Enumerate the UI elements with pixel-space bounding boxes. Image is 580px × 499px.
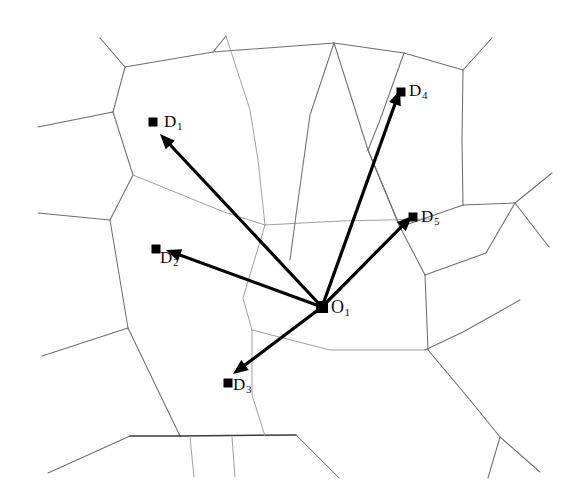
edge-left-upper-arm xyxy=(38,112,113,127)
marker-D5 xyxy=(409,213,418,222)
label-D2-text: D xyxy=(160,248,172,267)
label-D1-subscript: 1 xyxy=(177,120,183,132)
voronoi-cell-edges xyxy=(38,36,552,478)
edge-top-right-ridge xyxy=(334,43,463,70)
edge-left-mid-arm xyxy=(38,213,110,220)
edge-right-upper-v xyxy=(290,43,334,260)
vector-O1-D4-shaft xyxy=(322,101,396,307)
edge-bottom-spur-b xyxy=(232,437,235,477)
edge-right-cross-ne xyxy=(515,173,552,203)
vector-O1-D1-shaft xyxy=(168,143,322,307)
label-D2: D2 xyxy=(160,249,178,266)
edge-cell1-bottom xyxy=(133,175,265,225)
edge-right-cross-nw xyxy=(463,203,515,205)
edge-mid-right-down xyxy=(428,350,500,437)
label-D3-subscript: 3 xyxy=(246,383,252,395)
label-D4-subscript: 4 xyxy=(422,89,428,101)
vector-arrows xyxy=(160,90,412,374)
edge-right-down-fork xyxy=(500,437,540,472)
edge-mid-right-stem xyxy=(425,275,428,350)
edge-right-box-top xyxy=(462,70,463,205)
label-O1-subscript: 1 xyxy=(345,306,351,318)
label-D5: D5 xyxy=(421,208,439,225)
label-D3: D3 xyxy=(233,376,251,393)
marker-D1 xyxy=(149,118,158,127)
edge-bottom-left-tail xyxy=(48,436,130,473)
label-O1-text: O xyxy=(331,297,344,317)
voronoi-vector-figure: D1D2D3D4D5O1 xyxy=(0,0,580,499)
edge-left-mid xyxy=(110,112,133,220)
edge-right-cross-se xyxy=(515,203,549,247)
edge-top-mid-spur xyxy=(213,36,226,52)
marker-O1 xyxy=(316,301,328,313)
label-D4-text: D xyxy=(409,81,421,100)
edge-left-bottom xyxy=(128,328,180,436)
edge-center-lower xyxy=(252,330,265,436)
edge-top-left-spur xyxy=(100,38,125,67)
marker-D3 xyxy=(224,379,233,388)
edge-bottom-right-tail xyxy=(296,435,339,478)
point-markers xyxy=(149,88,418,388)
label-D1: D1 xyxy=(164,113,182,130)
edge-cell-mid-vert xyxy=(226,36,265,225)
label-D4: D4 xyxy=(409,82,427,99)
edge-left-upper xyxy=(113,67,125,112)
edge-left-lower xyxy=(110,220,128,328)
marker-D4 xyxy=(397,88,406,97)
edge-right-down-fork2 xyxy=(488,437,500,478)
vector-O1-D2-shaft xyxy=(177,254,322,307)
vector-O1-D5-shaft xyxy=(322,225,404,307)
figure-canvas xyxy=(0,0,580,499)
vector-O1-D3-shaft xyxy=(243,307,322,367)
label-D5-text: D xyxy=(421,207,433,226)
label-D1-text: D xyxy=(164,112,176,131)
edge-bottom-ridge xyxy=(180,435,296,436)
label-O1: O1 xyxy=(331,298,350,316)
edge-left-lower-arm xyxy=(42,328,128,356)
edge-bottom-spur-a xyxy=(190,437,194,477)
edge-right-lower-arm xyxy=(425,300,520,350)
label-D5-subscript: 5 xyxy=(434,215,440,227)
label-D3-text: D xyxy=(233,375,245,394)
edge-top-right-spur xyxy=(463,38,492,70)
label-D2-subscript: 2 xyxy=(173,256,179,268)
